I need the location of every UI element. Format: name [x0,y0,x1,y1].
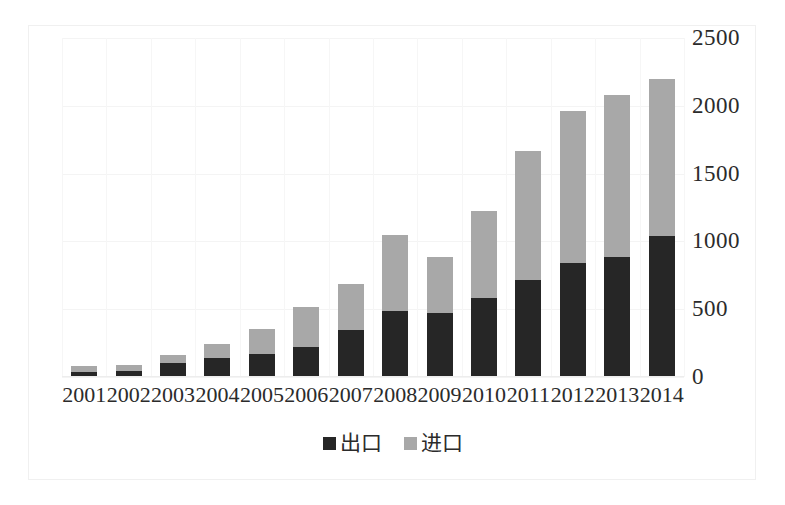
x-axis-tick-label: 2010 [462,383,506,407]
x-axis-tick-label: 2011 [506,383,550,407]
x-axis-tick-label: 2008 [373,383,417,407]
bar-segment-export[interactable] [471,298,497,377]
bar-group[interactable] [71,38,97,377]
y-axis-tick-label: 0 [692,365,704,388]
bar-segment-export[interactable] [427,313,453,377]
bar-segment-import[interactable] [515,151,541,280]
bar-segment-import[interactable] [471,211,497,298]
bar-segment-import[interactable] [427,257,453,313]
legend-item[interactable]: 进口 [404,432,463,454]
bar-group[interactable] [427,38,453,377]
bar-group[interactable] [515,38,541,377]
bar-segment-export[interactable] [160,363,186,377]
x-axis-tick-label: 2002 [107,383,151,407]
legend-item[interactable]: 出口 [323,432,382,454]
x-axis-tick-label: 2006 [284,383,328,407]
bar-segment-export[interactable] [604,257,630,377]
bar-segment-export[interactable] [560,263,586,377]
legend-label: 进口 [421,432,463,454]
bar-group[interactable] [116,38,142,377]
bar-group[interactable] [293,38,319,377]
bar-segment-export[interactable] [338,330,364,377]
bar-group[interactable] [382,38,408,377]
x-axis-tick-label: 2003 [151,383,195,407]
bar-segment-export[interactable] [649,236,675,377]
x-axis-tick-label: 2007 [329,383,373,407]
bar-group[interactable] [604,38,630,377]
bar-group[interactable] [204,38,230,377]
bar-segment-import[interactable] [560,111,586,264]
bar-group[interactable] [160,38,186,377]
bar-segment-export[interactable] [293,347,319,378]
bar-segment-import[interactable] [204,344,230,358]
bar-segment-import[interactable] [604,95,630,257]
bar-group[interactable] [649,38,675,377]
x-axis-tick-label: 2001 [62,383,106,407]
bar-group[interactable] [249,38,275,377]
chart-legend: 出口进口 [0,432,785,454]
x-axis-tick-label: 2013 [595,383,639,407]
y-axis-tick-label: 2500 [692,26,740,49]
bar-segment-export[interactable] [204,358,230,377]
y-axis-tick-label: 2000 [692,94,740,117]
chart-root: 25002000150010005000 2001200220032004200… [0,0,785,505]
bar-segment-export[interactable] [249,354,275,377]
x-axis-tick-label: 2009 [418,383,462,407]
y-axis: 25002000150010005000 [692,38,772,377]
bar-segment-import[interactable] [249,329,275,354]
x-axis-baseline [62,376,684,377]
bar-group[interactable] [338,38,364,377]
bar-series-container [62,38,684,377]
bar-group[interactable] [471,38,497,377]
bar-segment-import[interactable] [160,355,186,363]
y-axis-tick-label: 1000 [692,229,740,252]
plot-area [62,38,684,377]
bar-segment-export[interactable] [382,311,408,377]
x-axis-tick-label: 2012 [551,383,595,407]
bar-segment-import[interactable] [293,307,319,346]
legend-label: 出口 [340,432,382,454]
bar-segment-import[interactable] [649,79,675,236]
legend-swatch-icon [404,437,417,450]
bar-group[interactable] [560,38,586,377]
legend-swatch-icon [323,437,336,450]
bar-segment-import[interactable] [338,284,364,330]
x-axis-tick-label: 2005 [240,383,284,407]
bar-segment-export[interactable] [515,280,541,377]
y-axis-tick-label: 500 [692,297,728,320]
x-axis-tick-label: 2014 [640,383,684,407]
y-axis-tick-label: 1500 [692,162,740,185]
bar-segment-import[interactable] [382,235,408,311]
x-axis-tick-label: 2004 [195,383,239,407]
x-axis: 2001200220032004200520062007200820092010… [62,383,684,415]
